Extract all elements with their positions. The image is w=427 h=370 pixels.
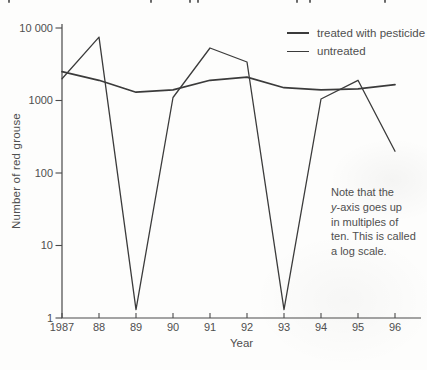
x-tick-label: 1987 xyxy=(50,321,74,333)
x-tick-label: 92 xyxy=(241,321,253,333)
x-tick-label: 95 xyxy=(352,321,364,333)
x-tick-label: 93 xyxy=(278,321,290,333)
treated-line-swatch-icon xyxy=(287,32,309,34)
x-tick-label: 90 xyxy=(167,321,179,333)
red-grouse-figure: 110100100010 0001987888990919293949596 N… xyxy=(0,0,427,370)
log-scale-note: Note that the y-axis goes up in multiple… xyxy=(331,185,416,259)
y-tick-label: 10 xyxy=(41,239,53,251)
y-tick-label: 100 xyxy=(35,167,53,179)
x-tick-label: 96 xyxy=(389,321,401,333)
x-tick-label: 88 xyxy=(93,321,105,333)
y-axis-label: Number of red grouse xyxy=(10,71,22,271)
note-line: ten. This is called xyxy=(331,229,416,244)
x-tick-label: 91 xyxy=(204,321,216,333)
note-line: a log scale. xyxy=(331,244,416,259)
legend-label-treated: treated with pesticide xyxy=(317,27,425,39)
legend-item-treated: treated with pesticide xyxy=(287,24,425,42)
x-tick-label: 89 xyxy=(130,321,142,333)
y-tick-label: 10 000 xyxy=(19,22,53,34)
note-line: in multiples of xyxy=(331,215,416,230)
note-line: y-axis goes up xyxy=(331,200,416,215)
x-axis-label: Year xyxy=(62,337,421,349)
y-tick-label: 1000 xyxy=(29,94,53,106)
legend: treated with pesticide untreated xyxy=(287,24,425,60)
axes xyxy=(62,24,421,318)
legend-item-untreated: untreated xyxy=(287,42,425,60)
x-tick-label: 94 xyxy=(315,321,327,333)
series-line-treated-with-pesticide xyxy=(62,72,395,93)
legend-label-untreated: untreated xyxy=(317,45,366,57)
untreated-line-swatch-icon xyxy=(287,51,309,52)
note-line: Note that the xyxy=(331,185,416,200)
